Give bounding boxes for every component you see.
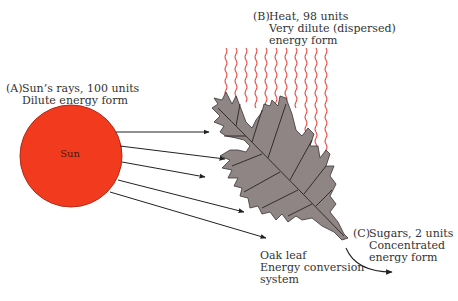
label-c-sugars: (C)Sugars, 2 units Concentrated energy f…	[353, 228, 453, 264]
label-oak-leaf: Oak leaf Energy conversion system	[260, 250, 364, 286]
label-b-line3: energy form	[253, 35, 396, 47]
label-c-line3: energy form	[353, 252, 453, 264]
sun-label: Sun	[40, 148, 100, 159]
label-a-tag: (A)	[6, 83, 22, 95]
label-c-tag: (C)	[353, 228, 369, 240]
label-b-heat: (B)Heat, 98 units Very dilute (dispersed…	[253, 11, 396, 47]
label-b-tag: (B)	[253, 11, 269, 23]
label-a-suns-rays: (A)Sun’s rays, 100 units Dilute energy f…	[6, 83, 139, 107]
oak-leaf	[212, 92, 348, 240]
leaf-label-line3: system	[260, 274, 364, 286]
label-a-line2: Dilute energy form	[6, 95, 139, 107]
